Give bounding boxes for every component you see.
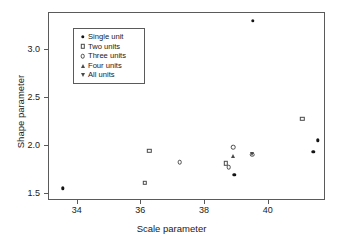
- data-point: [61, 187, 64, 190]
- y-axis-tick-label: 2.0: [27, 140, 40, 150]
- x-axis-tick-label: 36: [135, 205, 145, 215]
- data-point: [316, 139, 319, 142]
- data-point: [226, 165, 231, 170]
- legend-item-label: Three units: [88, 51, 126, 61]
- data-point: [251, 19, 254, 22]
- legend-item-label: Single unit: [88, 32, 123, 42]
- legend-marker-icon: [77, 70, 88, 80]
- data-point: [300, 117, 304, 121]
- y-axis-tick: [44, 49, 48, 50]
- legend-item: Two units: [77, 42, 140, 52]
- legend-item: Single unit: [77, 32, 140, 42]
- x-axis-label: Scale parameter: [0, 223, 343, 234]
- data-point: [231, 154, 235, 158]
- data-point: [312, 150, 315, 153]
- legend-item-label: Two units: [88, 42, 120, 52]
- data-point: [142, 180, 146, 184]
- y-axis-tick-label: 2.5: [27, 92, 40, 102]
- scatter-plot-figure: 343638401.52.02.53.0 Single unitTwo unit…: [0, 0, 343, 245]
- data-point: [231, 145, 236, 150]
- data-point: [250, 152, 254, 156]
- legend-item-label: All units: [88, 70, 115, 80]
- y-axis-tick: [44, 145, 48, 146]
- chart-legend: Single unitTwo unitsThree unitsFour unit…: [73, 28, 145, 84]
- legend-marker-icon: [77, 32, 88, 42]
- x-axis-tick-label: 38: [199, 205, 209, 215]
- y-axis-tick: [44, 193, 48, 194]
- legend-marker-icon: [77, 61, 88, 71]
- data-point: [177, 160, 182, 165]
- legend-item: Three units: [77, 51, 140, 61]
- y-axis-tick-label: 3.0: [27, 44, 40, 54]
- x-axis-tick-label: 34: [72, 205, 82, 215]
- x-axis-tick: [268, 200, 269, 204]
- x-axis-tick-label: 40: [263, 205, 273, 215]
- data-point: [147, 149, 151, 153]
- data-point: [233, 173, 236, 176]
- x-axis-tick: [77, 200, 78, 204]
- legend-item-label: Four units: [88, 61, 122, 71]
- y-axis-label: Shape parameter: [15, 52, 26, 172]
- legend-item: All units: [77, 70, 140, 80]
- legend-item: Four units: [77, 61, 140, 71]
- x-axis-tick: [204, 200, 205, 204]
- legend-marker-icon: [77, 42, 88, 52]
- legend-marker-icon: [77, 51, 88, 61]
- y-axis-tick: [44, 97, 48, 98]
- x-axis-tick: [140, 200, 141, 204]
- y-axis-tick-label: 1.5: [27, 188, 40, 198]
